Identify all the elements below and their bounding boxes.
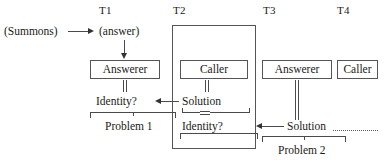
identity-label-t2: Identity?: [182, 120, 223, 133]
t3-answerer-lifeline: [295, 80, 299, 120]
t3-solution-arrow-shaft: [262, 126, 284, 127]
problem-2-label: Problem 2: [278, 144, 326, 157]
t1-answerer-lifeline: [123, 80, 127, 92]
answer-to-answerer-arrow-shaft: [124, 40, 125, 53]
problem-1-label: Problem 1: [105, 120, 153, 133]
continuation-dotted-line: [333, 130, 378, 131]
t2-caller-lifeline: [205, 80, 209, 92]
solution-to-identity-arrow-shaft: [161, 101, 179, 102]
problem-1-bracket-tick: [133, 112, 134, 116]
solution-label-t2: Solution: [182, 95, 221, 108]
time-label-t1: T1: [99, 4, 112, 16]
t2-solution-identity-bracket: [182, 108, 250, 113]
entity-box-t4-caller[interactable]: Caller: [337, 60, 378, 79]
entity-box-t3-answerer[interactable]: Answerer: [262, 60, 332, 79]
time-label-t4: T4: [337, 4, 350, 16]
answer-label: (answer): [99, 25, 139, 38]
entity-box-t2-caller[interactable]: Caller: [180, 60, 248, 79]
time-label-t2: T2: [173, 4, 186, 16]
time-label-t3: T3: [263, 4, 276, 16]
identity-label-t1: Identity?: [96, 95, 137, 108]
answer-to-answerer-arrow-head-icon: [121, 53, 127, 59]
solution-label-t3: Solution: [287, 120, 326, 133]
summons-arrow-head-icon: [88, 28, 94, 34]
t2-solution-identity-double-tick: [200, 111, 210, 115]
summons-arrow-shaft: [68, 31, 88, 32]
problem-2-bracket-tick: [304, 136, 305, 140]
interaction-sequence-diagram: T1 T2 T3 T4 (Summons) (answer) Answerer …: [0, 0, 387, 165]
entity-box-t1-answerer[interactable]: Answerer: [90, 60, 160, 79]
summons-label: (Summons): [4, 25, 58, 38]
t2-identity-closing-bracket: [180, 133, 258, 139]
